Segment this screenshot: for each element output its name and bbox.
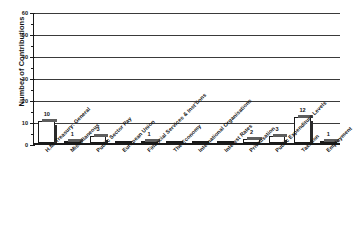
bar-shadow-side <box>310 121 313 143</box>
bar-value-label: 10 <box>44 111 50 117</box>
bar[interactable] <box>64 141 81 143</box>
bar-slot: 10 <box>38 13 55 143</box>
baseline-shadow <box>34 143 340 145</box>
bar[interactable] <box>141 141 158 143</box>
y-tick-label: 30 <box>22 76 28 82</box>
bar-value-label: 1 <box>148 131 151 137</box>
y-axis-title: Number of Contributions <box>17 0 26 127</box>
y-tick-label: 20 <box>22 98 28 104</box>
bar-slot: 1 <box>64 13 81 143</box>
bar[interactable] <box>320 141 337 143</box>
y-tick-label: 10 <box>22 120 28 126</box>
y-tick-label: 50 <box>22 32 28 38</box>
plot-area: 0102030405060 1013123121 <box>33 13 340 145</box>
bar-shadow-top <box>324 139 339 142</box>
bar-value-label: 2 <box>250 129 253 135</box>
bar[interactable] <box>90 136 107 143</box>
bar-slot <box>166 13 183 143</box>
y-tick-label: 60 <box>22 10 28 16</box>
bar-shadow-side <box>105 140 108 143</box>
bar-shadow-side <box>54 125 57 143</box>
bar[interactable] <box>38 121 55 143</box>
bar-slot: 3 <box>90 13 107 143</box>
bar-value-label: 3 <box>275 126 278 132</box>
bar-series: 1013123121 <box>34 13 340 143</box>
bar[interactable] <box>294 117 311 143</box>
bar-slot: 1 <box>141 13 158 143</box>
y-tick-label: 0 <box>25 142 28 148</box>
bar-slot <box>192 13 209 143</box>
bar-shadow-top <box>247 137 262 140</box>
bar-shadow-side <box>284 140 287 143</box>
bar[interactable] <box>243 139 260 143</box>
bar-value-label: 1 <box>327 131 330 137</box>
bar-slot: 2 <box>243 13 260 143</box>
bar-zero <box>166 141 183 143</box>
bar-chart: Number of Contributions 0102030405060 10… <box>0 0 354 235</box>
bar-slot <box>115 13 132 143</box>
bar-value-label: 3 <box>96 126 99 132</box>
bar-value-label: 12 <box>299 107 305 113</box>
bar-shadow-top <box>273 134 288 137</box>
bar-shadow-top <box>298 115 313 118</box>
bar-zero <box>192 141 209 143</box>
bar-shadow-top <box>94 134 109 137</box>
bar-value-label: 1 <box>71 131 74 137</box>
y-tick-label: 40 <box>22 54 28 60</box>
bar-shadow-top <box>42 119 57 122</box>
bar-zero <box>115 141 132 143</box>
bar-zero <box>217 141 234 143</box>
bar-slot <box>217 13 234 143</box>
bar-slot: 1 <box>320 13 337 143</box>
bar-shadow-top <box>145 139 160 142</box>
bar-shadow-top <box>68 139 83 142</box>
bar[interactable] <box>269 136 286 143</box>
y-tick-major <box>30 145 35 146</box>
bar-slot: 12 <box>294 13 311 143</box>
bar-slot: 3 <box>269 13 286 143</box>
